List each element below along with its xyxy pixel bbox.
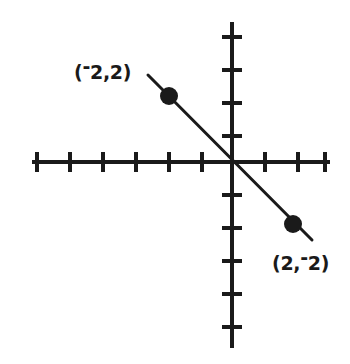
label-close-paren: ) — [123, 61, 131, 83]
coordinate-plane-svg — [0, 0, 350, 364]
plotted-point-b[interactable] — [284, 215, 302, 233]
label-comma: , — [293, 252, 300, 274]
figure-background — [0, 0, 350, 364]
coordinate-plane-figure: (-2,2) (2,-2) — [0, 0, 350, 364]
plotted-point-a[interactable] — [160, 87, 178, 105]
label-x-value: 2 — [280, 252, 293, 274]
label-y-value: 2 — [110, 61, 123, 83]
label-y-value: 2 — [308, 252, 321, 274]
label-comma: , — [103, 61, 110, 83]
label-open-paren: ( — [74, 61, 82, 83]
label-x-value: 2 — [90, 61, 103, 83]
label-close-paren: ) — [321, 252, 329, 274]
point-label-negative-2-2: (-2,2) — [74, 61, 131, 83]
point-label-2-negative-2: (2,-2) — [272, 252, 329, 274]
